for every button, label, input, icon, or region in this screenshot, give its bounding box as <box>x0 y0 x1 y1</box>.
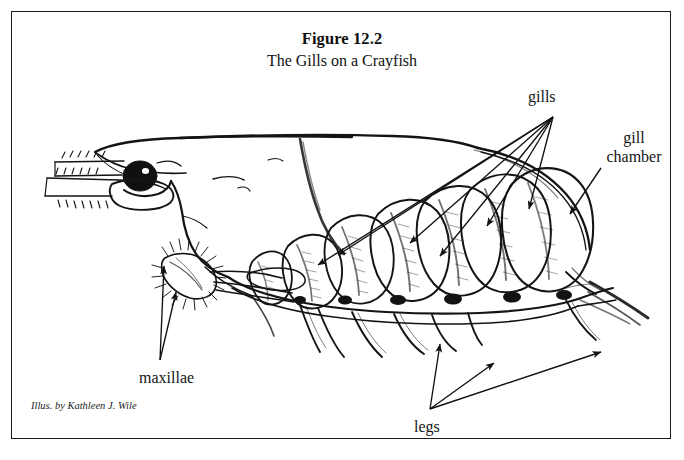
abdomen-group <box>560 268 648 340</box>
label-maxillae: maxillae <box>139 368 194 387</box>
annotation-arrows <box>160 117 601 409</box>
label-gills: gills <box>528 87 556 106</box>
gill-6 <box>461 174 551 292</box>
label-legs: legs <box>414 417 440 436</box>
gill-5 <box>417 186 501 296</box>
label-gill-chamber: gill chamber <box>596 128 672 166</box>
antennule-group <box>45 151 173 210</box>
illustrator-credit: Illus. by Kathleen J. Wile <box>31 400 137 411</box>
crayfish-illustration <box>0 0 684 460</box>
gill-4 <box>370 200 449 301</box>
legs-arrows <box>430 344 601 409</box>
label-gill-chamber-line1: gill <box>623 129 644 146</box>
maxillae-arrows <box>160 266 176 360</box>
gill-3 <box>325 215 394 303</box>
carapace-group <box>171 135 590 277</box>
gill-bases <box>294 290 572 305</box>
legs-group <box>252 296 482 357</box>
figure-page: Figure 12.2 The Gills on a Crayfish <box>0 0 684 460</box>
gill-chamber-arrow <box>570 168 601 214</box>
crayfish-body <box>45 135 648 357</box>
label-gill-chamber-line2: chamber <box>606 148 661 165</box>
